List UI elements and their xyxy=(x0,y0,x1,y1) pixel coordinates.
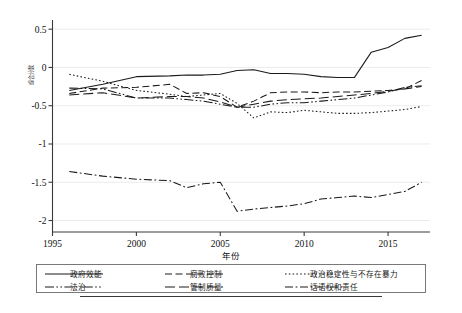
x-tick-label: 1995 xyxy=(43,239,62,249)
x-tick-label: 2015 xyxy=(379,239,398,249)
legend-label-2: 政治稳定性与不存在暴力 xyxy=(310,269,398,279)
series-line-0 xyxy=(69,35,421,90)
y-tick-label: -2 xyxy=(39,216,47,226)
legend-label-3: 法治 xyxy=(70,282,86,292)
y-tick-label: 0 xyxy=(42,63,47,73)
figure-container: 0.50-0.5-1-1.5-2 19952000200520102015 综合… xyxy=(0,0,462,313)
y-axis-title: 综合分数 xyxy=(27,64,35,86)
x-axis-ticks: 19952000200520102015 xyxy=(43,232,398,249)
chart-legend: 政府效能腐败控制政治稳定性与不存在暴力法治管制质量话语权和责任 xyxy=(37,265,426,293)
series-line-5 xyxy=(69,172,421,212)
x-tick-label: 2000 xyxy=(127,239,146,249)
gridlines xyxy=(53,29,431,220)
legend-label-5: 话语权和责任 xyxy=(310,282,358,292)
series-line-2 xyxy=(69,74,421,118)
legend-label-0: 政府效能 xyxy=(70,269,102,279)
line-chart: 0.50-0.5-1-1.5-2 19952000200520102015 综合… xyxy=(0,0,462,313)
x-tick-label: 2005 xyxy=(211,239,230,249)
y-tick-label: -1 xyxy=(39,139,47,149)
legend-label-4: 管制质量 xyxy=(190,282,222,292)
x-axis-title: 年份 xyxy=(222,251,240,261)
y-tick-label: -1.5 xyxy=(31,178,46,188)
legend-label-1: 腐败控制 xyxy=(190,269,222,279)
y-tick-label: 0.5 xyxy=(35,25,47,35)
y-tick-label: -0.5 xyxy=(31,101,46,111)
x-tick-label: 2010 xyxy=(295,239,314,249)
y-axis-ticks: 0.50-0.5-1-1.5-2 xyxy=(31,25,52,226)
plot-series-group xyxy=(69,35,421,211)
